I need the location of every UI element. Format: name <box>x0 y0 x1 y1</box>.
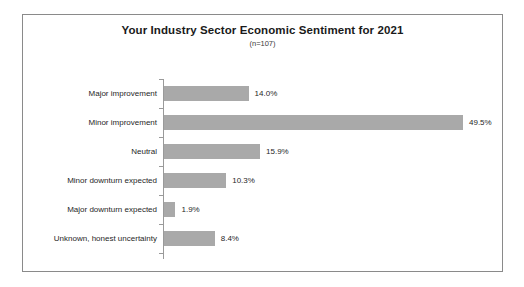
chart-header: Your Industry Sector Economic Sentiment … <box>23 23 502 49</box>
chart-subtitle: (n=107) <box>23 38 502 49</box>
bar-row[interactable]: Neutral15.9% <box>23 137 504 166</box>
bar-category-label: Major improvement <box>23 79 157 108</box>
plot-area: Major improvement14.0%Minor improvement4… <box>23 73 504 263</box>
bar-row[interactable]: Minor downturn expected10.3% <box>23 166 504 195</box>
bar-row[interactable]: Major downturn expected1.9% <box>23 195 504 224</box>
bar-value-label: 8.4% <box>221 224 239 253</box>
bar-row[interactable]: Minor improvement49.5% <box>23 108 504 137</box>
bar[interactable] <box>164 231 215 246</box>
bar-row[interactable]: Unknown, honest uncertainty8.4% <box>23 224 504 253</box>
bar-category-label: Minor downturn expected <box>23 166 157 195</box>
bar-category-label: Unknown, honest uncertainty <box>23 224 157 253</box>
bar-category-label: Major downturn expected <box>23 195 157 224</box>
bar[interactable] <box>164 115 463 130</box>
axis-tick <box>159 253 163 254</box>
bar[interactable] <box>164 173 226 188</box>
bar[interactable] <box>164 144 260 159</box>
bar-value-label: 15.9% <box>266 137 289 166</box>
bar[interactable] <box>164 86 249 101</box>
bar-row[interactable]: Major improvement14.0% <box>23 79 504 108</box>
bar[interactable] <box>164 202 175 217</box>
page-title: Your Industry Sector Economic Sentiment … <box>23 23 502 37</box>
bar-category-label: Neutral <box>23 137 157 166</box>
bar-value-label: 14.0% <box>255 79 278 108</box>
chart-container: Your Industry Sector Economic Sentiment … <box>22 14 503 272</box>
bar-value-label: 1.9% <box>181 195 199 224</box>
bar-category-label: Minor improvement <box>23 108 157 137</box>
bar-value-label: 49.5% <box>469 108 492 137</box>
bar-value-label: 10.3% <box>232 166 255 195</box>
